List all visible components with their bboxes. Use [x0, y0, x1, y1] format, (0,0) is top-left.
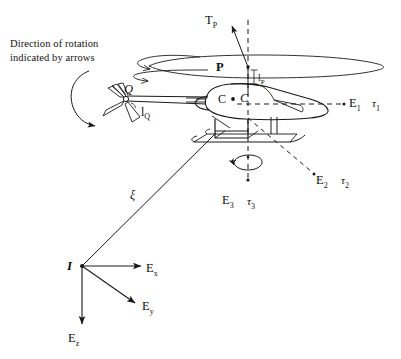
tail-rotor-rotation-arrow	[71, 71, 95, 126]
body-axis-2	[248, 118, 316, 176]
inertial-frame	[80, 264, 141, 324]
body-axis-3-label-main: E	[222, 193, 230, 207]
body-axis-3-tip	[246, 178, 249, 181]
helicopter-fuselage	[195, 84, 328, 120]
body-torque-2-label-sub: 2	[345, 181, 349, 190]
main-rotor-arm-label: lP	[258, 73, 265, 86]
inertial-axis-y-label-main: E	[142, 299, 150, 313]
body-axis-1-label: E1	[349, 93, 361, 114]
inertial-origin-label: I	[67, 258, 72, 273]
tail-rotor-arm-label-sub: Q	[144, 112, 150, 121]
body-axis-2-label-main: E	[316, 173, 324, 187]
body-torque-2-label: τ2	[341, 170, 349, 191]
inertial-axis-x-label-sub: x	[154, 269, 158, 278]
body-axis-3-label: E3	[222, 190, 234, 211]
inertial-axis-y-label-sub: y	[150, 307, 154, 316]
main-rotor-disc	[149, 55, 384, 78]
tail-rotor-torque-label: Q	[124, 82, 133, 97]
body-axis-1-label-main: E	[349, 96, 357, 110]
body-torque-3-label: τ3	[247, 191, 255, 212]
inertial-axis-x-label: Ex	[146, 258, 158, 279]
rotation-note-line-2: indicated by arrows	[10, 52, 95, 64]
thrust-label-sub: P	[213, 21, 217, 30]
position-vector-xi	[82, 133, 216, 266]
tail-rotor-arm-label: lQ	[141, 105, 150, 122]
body-torque-3-label-sub: 3	[251, 202, 255, 211]
body-torque-1-label-sub: 1	[376, 104, 380, 113]
inertial-axis-x-label-main: E	[146, 261, 154, 275]
body-axis-2-label: E2	[316, 170, 328, 191]
body-axis-1-label-sub: 1	[357, 104, 361, 113]
center-of-mass-label-right: C	[240, 91, 248, 106]
inertial-axis-z-label-sub: z	[76, 339, 80, 348]
tail-boom	[127, 96, 208, 104]
main-rotor-arm-dimension	[251, 70, 258, 84]
center-of-mass-marker	[231, 97, 235, 101]
center-of-mass-label-left: C	[218, 92, 226, 106]
inertial-axis-z-label: Ez	[68, 328, 79, 349]
inertial-axis-z-label-main: E	[68, 331, 76, 345]
tail-rotor	[103, 83, 140, 122]
main-rotor-point-label: P	[216, 60, 224, 75]
body-torque-1-label: τ1	[372, 93, 380, 114]
inertial-axis-y-label: Ey	[142, 296, 154, 317]
main-rotor-rotation-arrow	[134, 55, 208, 81]
body-axis-3-label-sub: 3	[230, 201, 234, 210]
body-axis-2-label-sub: 2	[324, 181, 328, 190]
position-vector-label: ξ	[130, 188, 135, 202]
thrust-label: TP	[205, 10, 217, 31]
rotation-note-line-1: Direction of rotation	[10, 38, 98, 50]
thrust-vector-arrow	[232, 26, 248, 67]
main-rotor-arm-label-sub: P	[261, 78, 265, 86]
thrust-label-main: T	[205, 13, 213, 27]
helicopter-coordinate-frame-diagram: Direction of rotation indicated by arrow…	[0, 0, 401, 359]
